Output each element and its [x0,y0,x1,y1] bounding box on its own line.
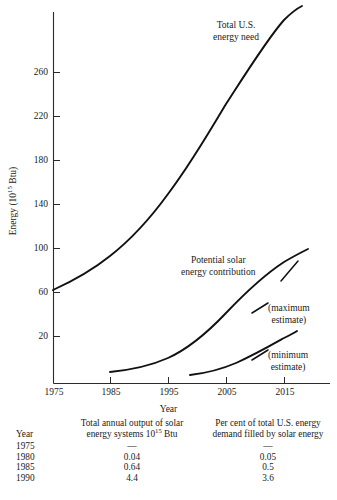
x-tick-label-1995: 1995 [153,388,185,398]
table-cell-output: — [62,441,202,452]
annotation-max-line1: (maximum [268,303,310,315]
annotation-solar-line1: Potential solar [181,255,256,267]
table-row: 1980 0.04 0.05 [16,452,334,463]
table-cell-year: 1975 [16,441,62,452]
table-cell-year: 1990 [16,473,62,484]
data-table-element: Year Total annual output of solar energy… [16,418,334,484]
table-body: 1975 — — 1980 0.04 0.05 1985 0.64 0.5 19… [16,441,334,483]
x-axis-ticks [111,377,285,384]
annotation-total-line2: energy need [213,32,259,44]
table-row: 1985 0.64 0.5 [16,462,334,473]
y-tick-label-60: 60 [10,288,48,298]
table-header-output-line1: Total annual output of solar [62,418,202,429]
annotation-max-line2: estimate) [268,315,310,327]
solar-output-data-table: Year Total annual output of solar energy… [0,418,337,484]
annotation-total-us-energy-need: Total U.S. energy need [213,20,259,43]
table-header-row: Year Total annual output of solar energy… [16,418,334,441]
table-cell-percent: 3.6 [202,473,334,484]
curve-total-us-energy-need [53,6,302,290]
table-header-output: Total annual output of solar energy syst… [62,418,202,441]
leader-line-solar-contribution [281,261,298,281]
table-header-percent-line1: Per cent of total U.S. energy [202,418,334,429]
annotation-solar-line2: energy contribution [181,267,256,279]
x-tick-label-1985: 1985 [95,388,127,398]
annotation-min-line2: estimate) [268,362,308,374]
x-axis-title: Year [0,404,337,414]
table-cell-output: 0.64 [62,462,202,473]
table-cell-output: 0.04 [62,452,202,463]
y-axis-title-exponent: 15 [6,186,13,193]
annotation-min-line1: (minimum [268,350,308,362]
annotation-potential-solar-contribution: Potential solar energy contribution [181,255,256,278]
table-cell-year: 1980 [16,452,62,463]
annotation-total-line1: Total U.S. [213,20,259,32]
table-header-percent: Per cent of total U.S. energy demand fil… [202,418,334,441]
y-axis-title: Energy (1015 Btu) [8,141,18,261]
solar-energy-figure: 260 220 180 140 100 60 20 Energy (1015 B… [0,0,337,500]
table-row: 1990 4.4 3.6 [16,473,334,484]
y-tick-label-220: 220 [10,112,48,122]
table-head: Year Total annual output of solar energy… [16,418,334,441]
leader-line-maximum-estimate [252,303,268,313]
table-cell-percent: 0.5 [202,462,334,473]
table-header-output-exponent: 15 [155,427,162,434]
x-tick-label-2015: 2015 [269,388,301,398]
annotation-maximum-estimate: (maximum estimate) [268,303,310,326]
y-tick-label-20: 20 [10,332,48,342]
y-axis-ticks [54,73,61,337]
chart-plot-area: 260 220 180 140 100 60 20 Energy (1015 B… [0,0,337,405]
table-header-percent-line2: demand filled by solar energy [202,429,334,440]
table-header-output-line2: energy systems 1015 Btu [62,429,202,440]
table-cell-output: 4.4 [62,473,202,484]
table-cell-percent: — [202,441,334,452]
y-tick-label-260: 260 [10,68,48,78]
table-row: 1975 — — [16,441,334,452]
table-cell-percent: 0.05 [202,452,334,463]
annotation-minimum-estimate: (minimum estimate) [268,350,308,373]
table-header-year: Year [16,418,62,441]
x-tick-label-2005: 2005 [211,388,243,398]
table-cell-year: 1985 [16,462,62,473]
x-tick-label-1975: 1975 [38,388,70,398]
chart-svg [0,0,337,405]
